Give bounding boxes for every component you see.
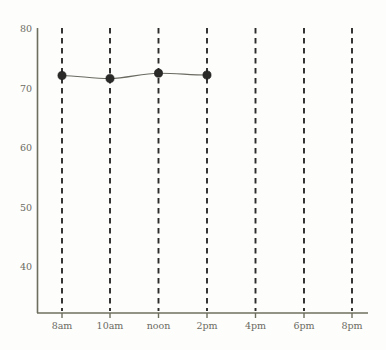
line-chart: 80 70 60 50 40 8am 10am noon 2pm 4pm 6pm… <box>0 0 386 350</box>
x-tick-label-2pm: 2pm <box>196 320 217 331</box>
x-tick-label-6pm: 6pm <box>293 320 314 331</box>
data-point-8am[interactable] <box>58 71 66 79</box>
x-tick-label-8pm: 8pm <box>341 320 362 331</box>
y-tick-label-40: 40 <box>20 261 32 272</box>
plot-background <box>0 0 386 350</box>
x-tick-label-10am: 10am <box>97 320 124 331</box>
data-point-noon[interactable] <box>154 69 162 77</box>
x-tick-label-noon: noon <box>147 320 171 331</box>
data-point-10am[interactable] <box>106 74 114 82</box>
y-tick-label-60: 60 <box>20 142 32 153</box>
data-point-2pm[interactable] <box>203 71 211 79</box>
chart-page: 80 70 60 50 40 8am 10am noon 2pm 4pm 6pm… <box>0 0 386 350</box>
x-tick-label-4pm: 4pm <box>245 320 266 331</box>
y-tick-label-80: 80 <box>20 23 32 34</box>
x-tick-label-8am: 8am <box>52 320 73 331</box>
y-tick-label-70: 70 <box>20 83 32 94</box>
y-tick-label-50: 50 <box>20 202 32 213</box>
